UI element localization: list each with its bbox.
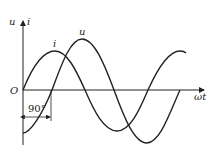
voltage-curve-u bbox=[23, 39, 180, 143]
y-axis-label-i: i bbox=[27, 16, 30, 27]
curve-label-u: u bbox=[79, 26, 85, 37]
phase-angle-label: 90° bbox=[28, 103, 46, 114]
current-curve-i bbox=[23, 51, 186, 131]
phase-diagram: u i O ωt i u 90° bbox=[0, 0, 216, 156]
origin-label: O bbox=[10, 85, 18, 96]
x-axis-label: ωt bbox=[194, 91, 207, 102]
curve-label-i: i bbox=[53, 38, 56, 49]
y-axis-label-u: u bbox=[9, 16, 15, 27]
